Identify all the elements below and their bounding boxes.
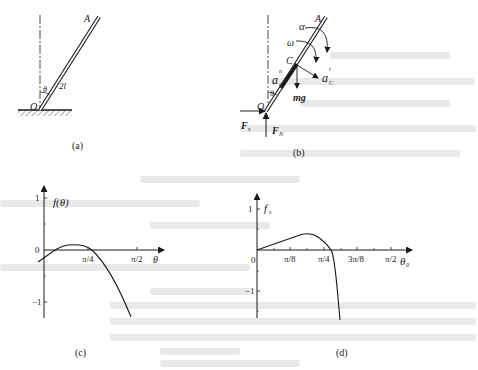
svg-text:t: t (329, 66, 331, 72)
d-xtick-pi4: π/4 (318, 254, 330, 264)
chart-c: 1 0 −1 π/4 π/2 f(θ) θ (c) (32, 186, 164, 359)
label-b-omega: ω (287, 37, 294, 48)
label-a-pivot: O (30, 101, 37, 112)
caption-b: (b) (293, 147, 305, 159)
d-ytick-neg1: −1 (245, 286, 255, 296)
d-xtick-3pi8: 3π/8 (348, 254, 365, 264)
label-a-length: 2l (59, 81, 67, 91)
svg-text:F: F (240, 120, 248, 131)
ground-hatch (18, 110, 72, 116)
panel-a: A O θ 2l (a) (18, 13, 99, 152)
label-a-end: A (83, 13, 91, 24)
svg-text:s: s (269, 209, 272, 215)
c-ytick-1: 1 (35, 193, 40, 203)
svg-text:n: n (279, 68, 282, 74)
label-b-friction: F s (240, 120, 251, 132)
label-b-weight: mg (293, 92, 306, 103)
rod-fill (40, 17, 99, 110)
d-ytick-0: 0 (251, 255, 256, 265)
figure-canvas: A O θ 2l (a) A α ω C a n C (0, 0, 478, 370)
label-b-tangential-acc: a t C (322, 66, 334, 86)
d-xlabel: θ 0 (400, 255, 409, 268)
d-xtick-pi8: π/8 (284, 254, 296, 264)
label-b-normal-acc: a n C (272, 68, 284, 88)
c-ylabel: f(θ) (53, 196, 69, 209)
d-xtick-pi2: π/2 (385, 254, 397, 264)
d-ylabel: f s (264, 202, 272, 215)
c-xlabel: θ (153, 254, 158, 265)
panel-b: A α ω C a n C a t C θ mg O F s F N (b) (240, 13, 334, 159)
svg-text:C: C (329, 80, 334, 86)
caption-a: (a) (72, 140, 83, 152)
label-b-alpha: α (299, 20, 305, 32)
tangential-acc-arrow-icon (297, 65, 318, 78)
c-xtick-pi4: π/4 (82, 254, 94, 264)
label-b-center: C (286, 55, 293, 66)
chart-d: 1 0 −1 π/8 π/4 3π/8 π/2 f s θ 0 (d) (245, 194, 412, 359)
normal-acc-arrow (281, 64, 297, 88)
label-b-pivot: O (257, 101, 264, 112)
svg-text:a: a (272, 73, 278, 87)
caption-c: (c) (75, 347, 86, 359)
svg-text:0: 0 (406, 262, 409, 268)
label-b-end: A (314, 13, 322, 24)
c-xtick-pi2: π/2 (131, 254, 143, 264)
label-b-angle: θ (270, 89, 274, 98)
label-a-angle: θ (43, 85, 47, 94)
label-b-normal-force: F N (271, 125, 284, 137)
svg-text:s: s (248, 126, 251, 132)
svg-text:a: a (322, 71, 328, 85)
svg-text:N: N (278, 131, 284, 137)
caption-d: (d) (336, 347, 348, 359)
svg-text:F: F (271, 125, 279, 136)
c-ytick-neg1: −1 (32, 297, 42, 307)
d-curve (257, 234, 340, 320)
c-ytick-0: 0 (35, 245, 40, 255)
d-ytick-1: 1 (248, 204, 253, 214)
